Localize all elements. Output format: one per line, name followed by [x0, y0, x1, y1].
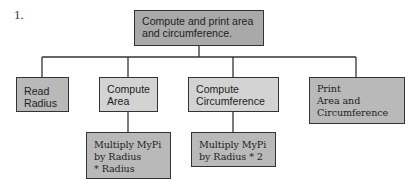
node-compute-area: Compute Area	[99, 77, 158, 112]
node-print-area-circumference: Print Area and Circumference	[309, 77, 405, 124]
node-compute-circumference: Compute Circumference	[188, 77, 279, 112]
node-multiply-area: Multiply MyPi by Radius * Radius	[86, 132, 171, 179]
node-read-radius: Read Radius	[16, 77, 69, 112]
root-node: Compute and print area and circumference…	[134, 10, 264, 46]
node-multiply-circumference: Multiply MyPi by Radius * 2	[191, 132, 276, 167]
